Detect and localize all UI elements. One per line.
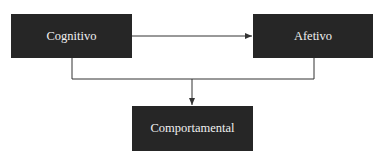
node-comportamental: Comportamental — [132, 106, 253, 151]
node-afetivo-label: Afetivo — [294, 29, 332, 44]
node-comportamental-label: Comportamental — [150, 121, 234, 136]
node-afetivo: Afetivo — [253, 14, 373, 58]
connector-afetivo-down — [192, 58, 314, 79]
node-cognitivo-label: Cognitivo — [46, 29, 96, 44]
connector-cognitivo-down — [72, 58, 192, 79]
node-cognitivo: Cognitivo — [11, 14, 132, 58]
